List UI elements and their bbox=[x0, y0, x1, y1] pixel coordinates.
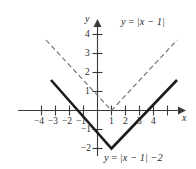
equation-top-rhs: |x − 1| bbox=[137, 16, 165, 27]
equation-top-lhs: y bbox=[121, 16, 126, 27]
x-tick-label-3: 3 bbox=[137, 117, 142, 127]
equation-label-bottom: y = |x − 1| −2 bbox=[104, 153, 163, 164]
x-tick-label-neg4: −4 bbox=[34, 117, 44, 127]
x-tick-label-2: 2 bbox=[123, 117, 128, 127]
y-tick-label-neg2: −2 bbox=[81, 144, 91, 154]
y-axis-label: y bbox=[85, 14, 89, 24]
equation-top-operator: = bbox=[128, 16, 134, 27]
equation-bottom-rhs: |x − 1| −2 bbox=[120, 152, 163, 163]
equation-bottom-operator: = bbox=[111, 152, 117, 163]
y-axis-arrow-icon bbox=[94, 19, 102, 27]
equation-label-top: y = |x − 1| bbox=[121, 17, 165, 28]
y-tick-label-neg1: −1 bbox=[81, 125, 91, 135]
x-tick-label-neg2: −2 bbox=[62, 117, 72, 127]
equation-bottom-lhs: y bbox=[104, 152, 109, 163]
y-tick-label-3: 3 bbox=[85, 49, 90, 59]
y-tick-label-4: 4 bbox=[85, 30, 90, 40]
y-tick-label-2: 2 bbox=[85, 68, 90, 78]
x-tick-label-4: 4 bbox=[151, 117, 156, 127]
graph-figure: y x −4 −3 −2 −1 1 2 3 4 4 3 2 1 −1 −2 y … bbox=[0, 0, 196, 169]
y-tick-label-1: 1 bbox=[85, 87, 90, 97]
x-tick-label-neg3: −3 bbox=[48, 117, 58, 127]
plot-area bbox=[0, 0, 196, 169]
x-tick-label-1: 1 bbox=[109, 117, 114, 127]
x-axis-label: x bbox=[182, 113, 186, 123]
